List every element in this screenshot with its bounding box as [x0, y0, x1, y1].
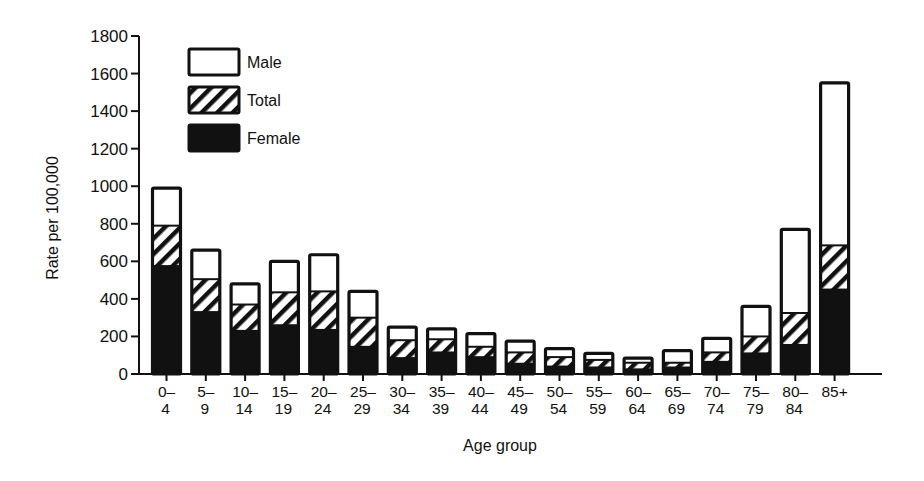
x-tick-label-line2: 9 — [200, 400, 209, 417]
x-tick-label: 55– — [586, 383, 612, 400]
rate-by-age-chart: 020040060080010001200140016001800 0–45–9… — [0, 0, 924, 481]
legend-swatch — [189, 125, 239, 151]
female-segment — [428, 351, 456, 374]
bar-group — [153, 83, 849, 374]
x-tick-label: 20– — [311, 383, 337, 400]
bar-50-54 — [546, 349, 574, 374]
bar-15-19 — [270, 261, 298, 374]
x-tick-label-line2: 39 — [432, 400, 449, 417]
legend-label: Female — [247, 130, 300, 147]
y-tick-label: 200 — [100, 327, 128, 346]
legend: MaleTotalFemale — [189, 49, 300, 151]
y-tick-label: 0 — [119, 365, 128, 384]
female-segment — [153, 265, 181, 374]
bar-30-34 — [388, 327, 416, 374]
bar-10-14 — [231, 284, 259, 374]
y-tick-label: 400 — [100, 290, 128, 309]
x-tick-label-line2: 84 — [786, 400, 804, 417]
female-segment — [703, 361, 731, 374]
legend-label: Male — [247, 54, 282, 71]
x-tick-label: 15– — [271, 383, 297, 400]
x-tick-label: 25– — [350, 383, 376, 400]
x-tick-label: 65– — [664, 383, 690, 400]
bar-70-74 — [703, 338, 731, 374]
x-axis-title: Age group — [463, 437, 537, 454]
x-tick-label: 45– — [507, 383, 533, 400]
bar-45-49 — [506, 341, 534, 374]
x-tick-label-line2: 14 — [235, 400, 253, 417]
y-tick-label: 600 — [100, 252, 128, 271]
x-tick-label-line2: 19 — [275, 400, 292, 417]
legend-label: Total — [247, 92, 281, 109]
female-segment — [192, 311, 220, 374]
female-segment — [388, 357, 416, 374]
bar-25-29 — [349, 291, 377, 374]
x-tick-label: 10– — [232, 383, 258, 400]
legend-item-female: Female — [189, 125, 300, 151]
bar-40-44 — [467, 334, 495, 374]
bar-35-39 — [428, 329, 456, 374]
legend-item-total: Total — [189, 87, 281, 113]
y-tick-label: 1800 — [90, 27, 128, 46]
bar-55-59 — [585, 353, 613, 374]
x-tick-label: 0– — [158, 383, 176, 400]
y-tick-label: 1000 — [90, 177, 128, 196]
x-tick-label-line2: 59 — [589, 400, 606, 417]
x-tick-label-line2: 4 — [161, 400, 170, 417]
female-segment — [270, 324, 298, 374]
x-tick-label: 75– — [743, 383, 769, 400]
bar-5-9 — [192, 250, 220, 374]
bar-85+ — [821, 83, 849, 374]
bar-0-4 — [153, 188, 181, 374]
female-segment — [349, 346, 377, 374]
y-tick-label: 1600 — [90, 65, 128, 84]
female-segment — [231, 330, 259, 374]
legend-swatch — [189, 49, 239, 75]
x-tick-label: 40– — [468, 383, 494, 400]
legend-item-male: Male — [189, 49, 282, 75]
x-tick-label-line2: 24 — [314, 400, 332, 417]
female-segment — [781, 344, 809, 374]
x-tick-label: 60– — [625, 383, 651, 400]
legend-swatch — [189, 87, 239, 113]
female-segment — [310, 329, 338, 374]
x-tick-label: 85+ — [821, 383, 847, 400]
female-segment — [467, 356, 495, 374]
y-tick-label: 1400 — [90, 102, 128, 121]
x-axis: 0–45–910–1415–1920–2425–2930–3435–3940–4… — [139, 374, 882, 417]
y-tick-label: 1200 — [90, 140, 128, 159]
x-tick-label: 30– — [389, 383, 415, 400]
x-tick-label-line2: 54 — [550, 400, 568, 417]
female-segment — [821, 289, 849, 374]
bar-80-84 — [781, 229, 809, 374]
y-axis-title: Rate per 100,000 — [44, 156, 61, 280]
y-axis: 020040060080010001200140016001800 — [90, 27, 139, 384]
bar-65-69 — [663, 351, 691, 374]
x-tick-label: 5– — [197, 383, 215, 400]
x-tick-label-line2: 29 — [353, 400, 370, 417]
x-tick-label-line2: 79 — [746, 400, 763, 417]
x-tick-label-line2: 64 — [628, 400, 646, 417]
bar-60-64 — [624, 358, 652, 374]
x-tick-label-line2: 69 — [668, 400, 685, 417]
female-segment — [506, 363, 534, 374]
x-tick-label: 80– — [782, 383, 808, 400]
x-tick-label: 70– — [704, 383, 730, 400]
y-tick-label: 800 — [100, 215, 128, 234]
x-tick-label-line2: 44 — [471, 400, 489, 417]
x-tick-label: 50– — [547, 383, 573, 400]
x-tick-label: 35– — [429, 383, 455, 400]
x-tick-label-line2: 49 — [511, 400, 528, 417]
bar-20-24 — [310, 255, 338, 374]
x-tick-label-line2: 34 — [393, 400, 411, 417]
bar-75-79 — [742, 306, 770, 374]
female-segment — [742, 352, 770, 374]
x-tick-label-line2: 74 — [707, 400, 725, 417]
